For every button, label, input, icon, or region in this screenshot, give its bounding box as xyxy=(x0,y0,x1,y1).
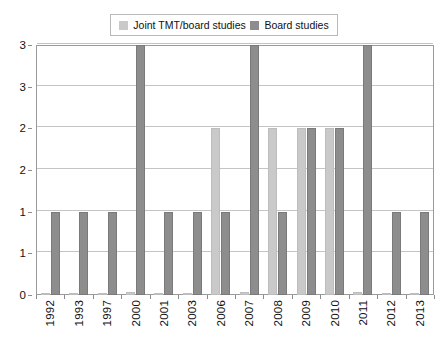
x-tick-mark xyxy=(178,295,179,299)
y-tick-label: 1 xyxy=(20,247,26,259)
legend-label-joint-tmt-board-studies: Joint TMT/board studies xyxy=(133,20,245,31)
y-axis: 0112233 xyxy=(0,45,32,295)
legend-swatch-joint-tmt-board-studies xyxy=(119,21,128,30)
x-tick-mark xyxy=(292,295,293,299)
x-tick-label: 2008 xyxy=(272,300,284,326)
x-tick-label: 2001 xyxy=(158,300,170,326)
y-tick-label: 3 xyxy=(20,81,26,93)
x-tick-mark xyxy=(235,295,236,299)
y-tick-mark xyxy=(28,128,32,129)
y-tick-label: 1 xyxy=(20,206,26,218)
x-tick-label: 2009 xyxy=(300,300,312,326)
gridline xyxy=(37,43,433,44)
y-tick-mark xyxy=(28,45,32,46)
x-tick-label: 1993 xyxy=(73,300,85,326)
x-tick-label: 2012 xyxy=(385,300,397,326)
x-tick-mark xyxy=(64,295,65,299)
y-tick-mark xyxy=(28,170,32,171)
y-tick-label: 2 xyxy=(20,164,26,176)
x-tick-label: 1997 xyxy=(101,300,113,326)
y-tick-label: 3 xyxy=(20,39,26,51)
y-tick-mark xyxy=(28,295,32,296)
x-tick-mark xyxy=(121,295,122,299)
legend-label-board-studies: Board studies xyxy=(264,20,328,31)
y-tick-label: 2 xyxy=(20,122,26,134)
x-tick-mark xyxy=(93,295,94,299)
x-tick-label: 1992 xyxy=(44,300,56,326)
x-tick-label: 2000 xyxy=(130,300,142,326)
chart-legend: Joint TMT/board studies Board studies xyxy=(110,14,338,36)
x-tick-mark xyxy=(263,295,264,299)
legend-swatch-board-studies xyxy=(250,21,259,30)
x-axis: 1992199319972000200120032006200720082009… xyxy=(36,300,434,340)
x-tick-mark xyxy=(434,295,435,299)
plot-area xyxy=(36,45,434,295)
x-tick-label: 2011 xyxy=(357,300,369,326)
x-tick-mark xyxy=(406,295,407,299)
gridline xyxy=(37,85,433,86)
x-tick-mark xyxy=(349,295,350,299)
x-tick-label: 2006 xyxy=(215,300,227,326)
gridline xyxy=(37,210,433,211)
legend-entry-joint-tmt-board-studies: Joint TMT/board studies xyxy=(119,20,245,31)
x-tick-label: 2003 xyxy=(186,300,198,326)
y-tick-label: 0 xyxy=(20,289,26,301)
x-tick-mark xyxy=(150,295,151,299)
y-tick-mark xyxy=(28,253,32,254)
x-tick-label: 2007 xyxy=(243,300,255,326)
bar-chart: Joint TMT/board studies Board studies 01… xyxy=(0,0,448,340)
x-tick-mark xyxy=(36,295,37,299)
x-tick-mark xyxy=(207,295,208,299)
gridline xyxy=(37,168,433,169)
x-tick-mark xyxy=(320,295,321,299)
gridline xyxy=(37,126,433,127)
x-tick-mark xyxy=(377,295,378,299)
x-tick-label: 2010 xyxy=(329,300,341,326)
y-tick-mark xyxy=(28,212,32,213)
x-tick-label: 2013 xyxy=(414,300,426,326)
legend-entry-board-studies: Board studies xyxy=(250,20,328,31)
gridline xyxy=(37,251,433,252)
y-tick-mark xyxy=(28,87,32,88)
